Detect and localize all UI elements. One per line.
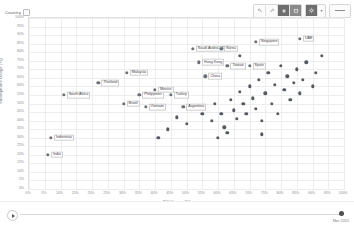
y-tick-label: 0% xyxy=(19,186,24,190)
y-tick-label: 20% xyxy=(17,152,24,156)
x-tick-label: 45% xyxy=(166,191,173,195)
y-tick-label: 95% xyxy=(17,24,24,28)
scatter-point[interactable] xyxy=(295,68,298,71)
timeline-track[interactable] xyxy=(20,214,340,215)
scatter-point[interactable] xyxy=(260,119,263,122)
gridline-horizontal xyxy=(29,163,344,164)
gridline-horizontal xyxy=(29,86,344,87)
scatter-point[interactable] xyxy=(219,112,222,115)
scatter-point[interactable] xyxy=(201,112,204,115)
scatter-point[interactable] xyxy=(254,107,257,110)
scatter-point[interactable] xyxy=(182,105,185,108)
scatter-point-label: India xyxy=(51,151,63,158)
gridline-horizontal xyxy=(29,138,344,139)
scatter-point-label: UAE xyxy=(303,35,315,42)
sort-icon[interactable] xyxy=(23,9,30,16)
scatter-point[interactable] xyxy=(226,131,229,134)
scatter-point-label: Brazil xyxy=(127,100,140,107)
scatter-point[interactable] xyxy=(197,61,200,64)
gridline-horizontal xyxy=(29,27,344,28)
scatter-point[interactable] xyxy=(210,119,213,122)
scatter-point[interactable] xyxy=(241,102,244,105)
scatter-point[interactable] xyxy=(156,136,159,139)
scatter-point[interactable] xyxy=(49,136,52,139)
pause-button[interactable] xyxy=(278,5,290,16)
y-tick-label: 10% xyxy=(17,169,24,173)
scatter-plot-area[interactable]: IndiaIndonesiaSouth AfricaThailandMalays… xyxy=(28,17,345,190)
scatter-point[interactable] xyxy=(185,122,188,125)
scatter-point[interactable] xyxy=(238,90,241,93)
scatter-point[interactable] xyxy=(298,37,301,40)
scatter-point[interactable] xyxy=(304,61,307,64)
y-axis-title: Smartphone Usage (%) xyxy=(0,58,3,104)
timeline-control[interactable]: Mar 2015 xyxy=(0,201,354,230)
gridline-horizontal xyxy=(29,189,344,190)
gear-icon[interactable] xyxy=(306,5,318,16)
x-tick-label: 10% xyxy=(56,191,63,195)
timeline-thumb[interactable] xyxy=(339,211,344,216)
x-tick-label: 20% xyxy=(87,191,94,195)
scatter-point[interactable] xyxy=(125,71,128,74)
scatter-point[interactable] xyxy=(97,81,100,84)
scatter-point[interactable] xyxy=(267,71,270,74)
gridline-vertical xyxy=(344,18,345,189)
gridline-horizontal xyxy=(29,35,344,36)
scatter-point[interactable] xyxy=(216,136,219,139)
scatter-point[interactable] xyxy=(279,64,282,67)
y-tick-label: 30% xyxy=(17,135,24,139)
scatter-point[interactable] xyxy=(260,133,263,136)
chevron-down-icon[interactable]: ▾ xyxy=(318,5,325,16)
scatter-point[interactable] xyxy=(166,127,169,130)
y-tick-label: 40% xyxy=(17,118,24,122)
scatter-point[interactable] xyxy=(276,112,279,115)
scatter-point-label: Hong Kong xyxy=(202,59,224,66)
gridline-horizontal xyxy=(29,155,344,156)
undo-button[interactable] xyxy=(254,5,266,16)
scatter-point[interactable] xyxy=(213,102,216,105)
scatter-point[interactable] xyxy=(144,105,147,108)
scatter-point[interactable] xyxy=(122,102,125,105)
scatter-point[interactable] xyxy=(320,54,323,57)
scatter-point[interactable] xyxy=(248,85,251,88)
scatter-point[interactable] xyxy=(191,47,194,50)
gridline-horizontal xyxy=(29,61,344,62)
scatter-point[interactable] xyxy=(226,64,229,67)
scatter-point[interactable] xyxy=(169,93,172,96)
presentation-button[interactable] xyxy=(290,5,301,16)
scatter-point[interactable] xyxy=(257,78,260,81)
scatter-point[interactable] xyxy=(314,71,317,74)
scatter-point[interactable] xyxy=(270,102,273,105)
scatter-point[interactable] xyxy=(245,112,248,115)
y-tick-label: 60% xyxy=(17,83,24,87)
scatter-point[interactable] xyxy=(229,98,232,101)
scatter-point[interactable] xyxy=(46,153,49,156)
scatter-point-label: Mexico xyxy=(158,86,174,93)
scatter-point[interactable] xyxy=(251,97,254,100)
x-tick-label: 50% xyxy=(182,191,189,195)
scatter-point[interactable] xyxy=(248,64,251,67)
scatter-point-label: Korea xyxy=(224,45,238,52)
scatter-point[interactable] xyxy=(238,54,241,57)
scatter-point[interactable] xyxy=(311,85,314,88)
scatter-point-label: Thailand xyxy=(101,80,119,87)
x-tick-label: 95% xyxy=(324,191,331,195)
scatter-point[interactable] xyxy=(175,115,178,118)
y-tick-label: 35% xyxy=(17,126,24,130)
y-tick-label: 90% xyxy=(17,32,24,36)
share-icon[interactable] xyxy=(329,4,351,18)
scatter-point[interactable] xyxy=(62,93,65,96)
scatter-point[interactable] xyxy=(289,98,292,101)
x-tick-label: 70% xyxy=(245,191,252,195)
x-tick-label: 90% xyxy=(308,191,315,195)
scatter-point-label: China xyxy=(208,73,222,80)
redo-button[interactable] xyxy=(266,5,278,16)
play-icon[interactable] xyxy=(7,210,18,221)
scatter-point[interactable] xyxy=(292,81,295,84)
play-triangle xyxy=(12,214,15,218)
x-tick-label: 60% xyxy=(213,191,220,195)
scatter-point[interactable] xyxy=(301,78,304,81)
gridline-horizontal xyxy=(29,44,344,45)
timeline-current-label: Mar 2015 xyxy=(333,219,349,223)
scatter-point[interactable] xyxy=(138,93,141,96)
scatter-point[interactable] xyxy=(282,88,285,91)
